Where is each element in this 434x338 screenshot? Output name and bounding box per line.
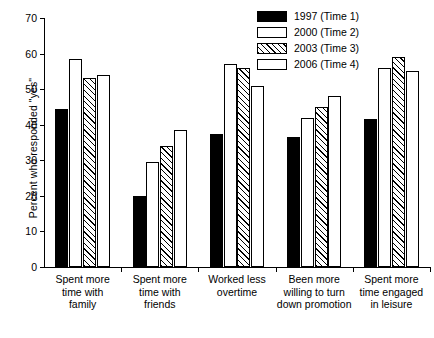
legend-swatch-diagonal-hatch xyxy=(257,43,287,54)
legend-label: 2000 (Time 2) xyxy=(294,27,359,38)
x-axis-group-separator xyxy=(353,267,354,272)
y-axis-tick-mark xyxy=(40,196,44,197)
x-axis-line xyxy=(44,267,430,268)
x-axis-group-separator xyxy=(276,267,277,272)
bar xyxy=(69,59,82,267)
bar xyxy=(97,75,110,267)
legend-label: 2003 (Time 3) xyxy=(294,43,359,54)
x-axis-group-separator xyxy=(121,267,122,272)
y-axis-tick-label: 40 xyxy=(25,119,37,130)
bar xyxy=(315,107,328,267)
y-axis-tick-mark xyxy=(40,125,44,126)
bar xyxy=(55,109,68,267)
x-axis-group-separator xyxy=(430,267,431,272)
bar xyxy=(406,71,419,267)
x-axis-group-separator xyxy=(198,267,199,272)
bar xyxy=(160,146,173,267)
bar xyxy=(251,86,264,267)
y-axis-tick-mark xyxy=(40,54,44,55)
y-axis-line xyxy=(44,18,45,267)
bar xyxy=(133,196,146,267)
y-axis-tick-mark xyxy=(40,18,44,19)
y-axis-tick-mark xyxy=(40,267,44,268)
y-axis-tick-label: 30 xyxy=(25,155,37,166)
legend-item: 2003 (Time 3) xyxy=(257,41,429,56)
y-axis-tick-mark xyxy=(40,89,44,90)
bar xyxy=(364,119,377,267)
y-axis-tick-mark xyxy=(40,160,44,161)
bar xyxy=(210,134,223,267)
y-axis-tick-label: 10 xyxy=(25,226,37,237)
bar xyxy=(237,68,250,267)
bar xyxy=(174,130,187,267)
bar xyxy=(301,118,314,267)
bar xyxy=(146,162,159,267)
y-axis-tick-label: 60 xyxy=(25,48,37,59)
bar xyxy=(287,137,300,267)
legend-label: 2006 (Time 4) xyxy=(294,59,359,70)
bar xyxy=(83,78,96,267)
legend-swatch-empty-white xyxy=(257,59,287,70)
legend-item: 1997 (Time 1) xyxy=(257,9,429,24)
bar xyxy=(328,96,341,267)
y-axis-title: Percent who responded "yes" xyxy=(27,53,39,243)
legend-swatch-solid-black xyxy=(257,11,287,22)
y-axis-tick-mark xyxy=(40,231,44,232)
bar xyxy=(392,57,405,267)
legend-swatch-stippled-dots xyxy=(257,27,287,38)
legend-item: 2000 (Time 2) xyxy=(257,25,429,40)
y-axis-tick-label: 50 xyxy=(25,84,37,95)
y-axis-tick-label: 70 xyxy=(25,13,37,24)
bar xyxy=(224,64,237,267)
y-axis-tick-label: 20 xyxy=(25,191,37,202)
y-axis-tick-label: 0 xyxy=(31,262,37,273)
x-axis-category-label: Spent more time engaged in leisure xyxy=(337,273,434,311)
legend-item: 2006 (Time 4) xyxy=(257,57,429,72)
legend-label: 1997 (Time 1) xyxy=(294,11,359,22)
legend: 1997 (Time 1)2000 (Time 2)2003 (Time 3)2… xyxy=(257,9,429,73)
bar xyxy=(378,68,391,267)
bar-chart-figure: Percent who responded "yes" 010203040506… xyxy=(0,0,434,338)
